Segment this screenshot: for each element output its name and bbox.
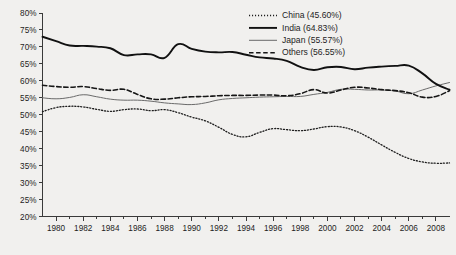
y-axis-tick-label: 20% [20,213,36,222]
y-axis-tick-label: 40% [20,145,36,154]
legend-label-japan: Japan (55.57%) [282,35,343,45]
y-axis-tick-label: 45% [20,128,36,137]
y-axis-tick-label: 70% [20,43,36,52]
line-chart: 80%75%70%65%60%55%50%45%40%35%30%25%20% … [0,0,456,255]
y-axis-tick-label: 65% [20,60,36,69]
x-axis-tick-label: 2006 [400,224,419,233]
x-axis-tick-label: 1988 [155,224,174,233]
y-axis-tick-label: 30% [20,179,36,188]
x-axis-tick-label: 1992 [210,224,229,233]
y-axis-tick-label: 35% [20,162,36,171]
y-axis-tick-label: 25% [20,196,36,205]
x-axis-tick-label: 2002 [345,224,364,233]
x-axis-tick-label: 1996 [264,224,283,233]
x-axis-tick-label: 1994 [237,224,256,233]
x-axis-tick-label: 1990 [183,224,202,233]
x-axis-tick-label: 1980 [47,224,66,233]
legend-label-india: India (64.83%) [282,23,338,33]
y-axis-tick-label: 75% [20,26,36,35]
chart-container: 80%75%70%65%60%55%50%45%40%35%30%25%20% … [0,0,456,255]
legend-label-others: Others (56.55%) [282,47,345,57]
y-axis-tick-label: 60% [20,77,36,86]
x-axis-tick-label: 1982 [74,224,93,233]
legend-label-china: China (45.60%) [282,10,342,20]
x-axis-tick-label: 1986 [128,224,147,233]
x-axis-tick-label: 1998 [291,224,310,233]
y-axis-tick-label: 55% [20,94,36,103]
x-axis-tick-label: 2004 [373,224,392,233]
x-axis-tick-label: 2000 [318,224,337,233]
x-axis-tick-label: 1984 [101,224,120,233]
y-axis-tick-label: 80% [20,9,36,18]
x-axis-tick-label: 2008 [427,224,446,233]
y-axis-tick-label: 50% [20,111,36,120]
